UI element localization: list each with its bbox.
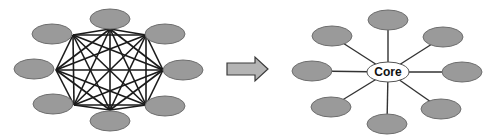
spoke-node: [421, 99, 461, 119]
mesh-node: [90, 9, 130, 29]
spoke-node: [442, 62, 482, 82]
mesh-node: [145, 96, 185, 116]
spoke-node: [311, 97, 351, 117]
mesh-node: [145, 24, 185, 44]
spoke-node: [312, 26, 352, 46]
mesh-node: [163, 60, 203, 80]
mesh-node: [33, 94, 73, 114]
mesh-node: [90, 111, 130, 131]
spoke-node: [367, 114, 407, 134]
mesh-edge: [73, 35, 74, 105]
mesh-edges: [56, 29, 163, 110]
mesh-node: [14, 59, 54, 79]
spoke-node: [423, 27, 463, 47]
mesh-node: [32, 24, 72, 44]
arrow-right-icon: [227, 57, 268, 81]
spoke-node: [368, 10, 408, 30]
core-label: Core: [374, 65, 402, 79]
network-diagram: Core: [0, 0, 495, 138]
spoke-node: [292, 61, 332, 81]
